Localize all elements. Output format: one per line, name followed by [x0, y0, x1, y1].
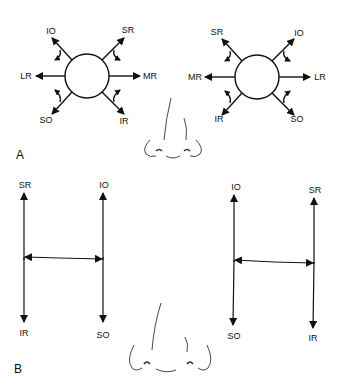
panel-a-left-eye: [205, 39, 310, 115]
label-so: SO: [227, 332, 240, 341]
label-ir: IR: [120, 117, 129, 126]
label-ir: IR: [309, 334, 318, 343]
label-ir: IR: [20, 329, 29, 338]
label-so: SO: [290, 115, 303, 124]
eye-circle-icon: [235, 55, 279, 99]
label-io: IO: [294, 29, 304, 38]
panel-b-right-eye-h: [24, 193, 103, 322]
eye-muscle-figure: IO SR LR MR SO IR SR IO MR LR IR SO A SR…: [0, 0, 337, 390]
label-io: IO: [231, 183, 241, 192]
label-mr: MR: [188, 73, 202, 82]
nose-drawing-icon: [145, 98, 202, 158]
label-so: SO: [96, 331, 109, 340]
label-lr: LR: [20, 72, 32, 81]
panel-b-left-eye-h: [233, 195, 314, 328]
panel-label-b: B: [14, 362, 22, 376]
label-mr: MR: [143, 72, 157, 81]
label-sr: SR: [19, 181, 32, 190]
label-sr: SR: [211, 28, 224, 37]
label-sr: SR: [122, 26, 135, 35]
label-sr: SR: [309, 186, 322, 195]
panel-label-a: A: [16, 148, 24, 162]
panel-a-right-eye: [36, 38, 140, 114]
label-io: IO: [46, 27, 56, 36]
diagram-graphics: [0, 0, 337, 390]
nose-drawing-icon: [129, 303, 210, 372]
label-io: IO: [99, 181, 109, 190]
label-ir: IR: [215, 115, 224, 124]
label-lr: LR: [314, 73, 326, 82]
label-so: SO: [39, 116, 52, 125]
eye-circle-icon: [65, 54, 109, 98]
